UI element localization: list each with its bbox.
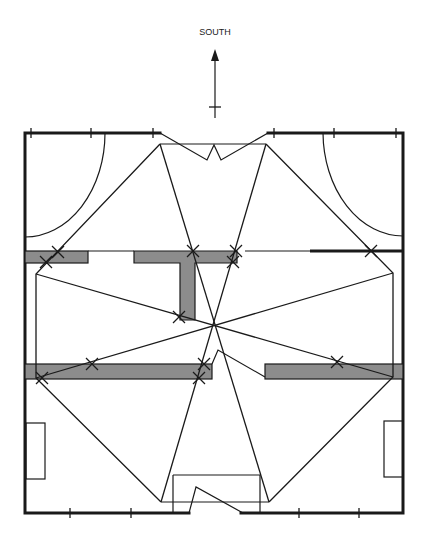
partition-lower-left (25, 364, 212, 379)
sightlines (36, 144, 393, 502)
partition-lower-right (265, 364, 403, 379)
partition-t-shaped (134, 251, 237, 320)
entry-vestibule (161, 475, 269, 513)
wall-left-and-bottom-left (25, 133, 189, 513)
fixtures (26, 421, 403, 513)
floor-plan-diagram: SOUTH (0, 0, 427, 549)
upper-right-swing (323, 133, 403, 236)
left-cabinet (26, 423, 45, 479)
door-swings (25, 133, 403, 237)
right-cabinet (384, 421, 403, 477)
wall-right-and-bottom-right (241, 133, 403, 513)
upper-left-swing (25, 133, 105, 237)
orientation-indicator: SOUTH (199, 27, 231, 118)
top-entrance-doors (160, 133, 268, 160)
north-south-arrow-icon (209, 49, 221, 118)
orientation-label: SOUTH (199, 27, 231, 37)
